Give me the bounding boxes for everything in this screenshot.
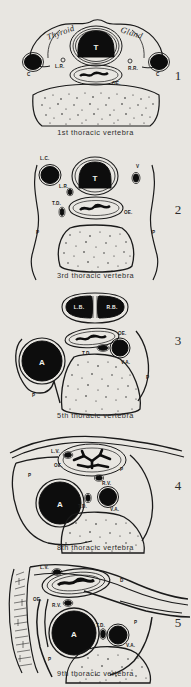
label-left-vein-4: L.V.	[51, 449, 60, 454]
figure-caption-4: 8th thoracic vertebra	[0, 543, 191, 552]
figure-number-1: 1	[168, 68, 188, 84]
label-vena-azygos-5: V.A.	[126, 643, 135, 648]
label-pleura-left-4: P	[28, 473, 31, 478]
label-pleura-right-2: P	[152, 230, 155, 235]
label-gland: Gland	[119, 24, 144, 41]
label-carotid-right-1: C	[156, 72, 160, 77]
label-pleura-left-3: P	[32, 393, 35, 398]
label-right-bronchus: R.B.	[106, 304, 118, 310]
label-carotid-left-1: C	[27, 72, 31, 77]
figure-number-2: 2	[168, 202, 188, 218]
label-thoracic-duct-4: T.D.	[78, 504, 87, 509]
figure-panel-5: A L.V. D OE.	[0, 555, 191, 687]
figure-panel-2: T	[0, 140, 191, 285]
figure-5-drawing: A L.V. D OE.	[0, 555, 191, 687]
label-oesophagus-5: OE.	[33, 597, 42, 602]
label-oesophagus-3: OE.	[118, 331, 127, 336]
figure-number-3: 3	[168, 333, 188, 349]
label-trachea-2: T	[93, 174, 98, 183]
label-thoracic-duct-5: T.D.	[96, 623, 105, 628]
label-vein-2: V	[136, 164, 140, 169]
label-thoracic-duct-2: T.D.	[52, 201, 61, 206]
label-left-vein-5: L.V.	[40, 565, 49, 570]
label-aorta-5: A	[71, 630, 77, 639]
label-left-bronchus: L.B.	[74, 304, 85, 310]
label-trachea-1: T	[94, 43, 99, 52]
figure-number-4: 4	[168, 478, 188, 494]
label-left-recurrent-2: L.R.	[59, 184, 68, 189]
label-pleura-left-5: P	[48, 657, 51, 662]
figure-2-drawing: T	[0, 140, 191, 285]
anatomy-plate: T	[0, 0, 191, 687]
figure-number-5: 5	[168, 615, 188, 631]
figure-3-drawing: L.B. R.B. A	[0, 285, 191, 425]
figure-panel-4: A L.V.	[0, 425, 191, 560]
label-pleura-left-2: P	[36, 230, 39, 235]
label-pleura-right-3: P	[146, 375, 149, 380]
figure-1-drawing: T	[0, 0, 191, 140]
label-oesophagus-4: OE.	[54, 463, 63, 468]
figure-panel-1: T	[0, 0, 191, 140]
label-right-recurrent-1: R.R.	[128, 66, 138, 71]
label-right-vein-4: R.V.	[102, 481, 111, 486]
figure-panel-3: L.B. R.B. A	[0, 285, 191, 425]
figure-caption-3: 5th thoracic vertebra	[0, 411, 191, 420]
label-thoracic-duct-3: T.D.	[82, 351, 91, 356]
label-oesophagus-2: OE.	[124, 210, 133, 215]
label-left-carotid-2: L.C.	[40, 156, 49, 161]
figure-caption-5-text: 9th thoracic vertebra	[0, 669, 191, 678]
label-vena-azygos-4: V.A.	[110, 507, 119, 512]
figure-caption-1: 1st thoracic vertebra	[0, 128, 191, 137]
label-oesophagus-1: OE.	[112, 81, 121, 86]
label-diaphragm-5: D	[120, 578, 124, 583]
figure-4-drawing: A L.V.	[0, 425, 191, 560]
label-left-recurrent-1: L.R.	[55, 64, 64, 69]
label-right-vein-5: R.V.	[52, 603, 61, 608]
label-vena-azygos-3: V.A.	[121, 360, 130, 365]
figure-caption-2: 3rd thoracic vertebra	[0, 271, 191, 280]
label-pleura-right-4: P	[120, 467, 123, 472]
label-aorta-4: A	[57, 500, 63, 509]
label-pleura-right-5: P	[134, 620, 137, 625]
label-aorta-3: A	[39, 358, 45, 367]
